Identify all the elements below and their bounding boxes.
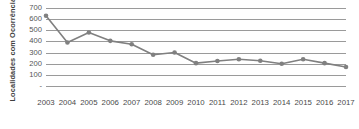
data-point-marker (87, 30, 92, 35)
y-axis-tick-label: - (16, 82, 42, 90)
data-point-marker (194, 61, 199, 66)
y-axis-tick-label: 600 (16, 15, 42, 23)
gridline (46, 86, 346, 87)
data-point-marker (344, 65, 349, 70)
data-point-marker (258, 58, 263, 63)
data-point-marker (108, 39, 113, 44)
data-point-marker (215, 59, 220, 64)
y-axis-tick-labels: 700600500400300200100- (16, 0, 42, 95)
data-point-marker (44, 14, 49, 19)
data-point-marker (279, 61, 284, 66)
data-point-marker (237, 57, 242, 62)
x-axis-tick-labels: 2003200420052006200720082009201020112012… (46, 98, 346, 112)
y-axis-tick-label: 700 (16, 4, 42, 12)
x-axis-tick-label: 2017 (331, 98, 359, 108)
data-point-marker (301, 57, 306, 62)
y-axis-tick-label: 200 (16, 60, 42, 68)
series-line-localidades-com-ocorrencias (46, 8, 346, 86)
y-axis-tick-label: 500 (16, 26, 42, 34)
data-point-marker (322, 61, 327, 66)
y-axis-tick-label: 300 (16, 49, 42, 57)
data-point-marker (65, 40, 70, 45)
y-axis-tick-label: 100 (16, 71, 42, 79)
data-point-marker (129, 42, 134, 47)
data-point-marker (151, 53, 156, 58)
plot-area (46, 8, 346, 86)
data-point-marker (172, 50, 177, 55)
y-axis-tick-label: 400 (16, 37, 42, 45)
